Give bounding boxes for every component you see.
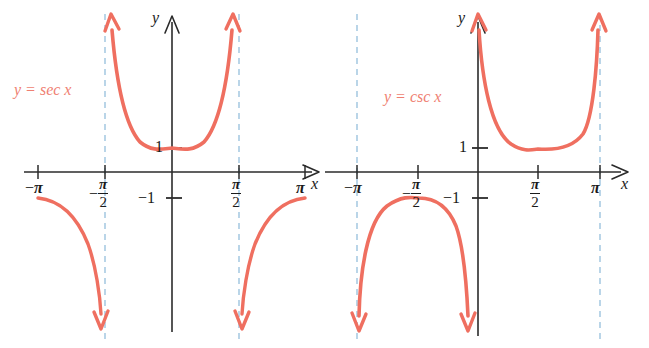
cosecant-graph-svg (325, 0, 649, 348)
csc-curve-left-branch (359, 197, 468, 316)
secant-graph-svg (0, 0, 325, 348)
x-tick-label-pi-over-2-sec: π2 (231, 178, 241, 212)
x-tick-label-neg-pi-over-2-csc: −π2 (402, 178, 421, 212)
x-axis-label-csc: x (621, 176, 628, 192)
y-tick-label-neg-one-sec: −1 (138, 190, 155, 206)
x-tick-label-pi-sec: π (296, 180, 305, 196)
y-tick-label-one-csc: 1 (459, 139, 467, 155)
y-axis-label-csc: y (458, 10, 465, 26)
y-tick-label-neg-one-csc: −1 (443, 190, 460, 206)
x-tick-label-pi-over-2-csc: π2 (530, 178, 540, 212)
equation-label-sec: y = sec x (14, 82, 71, 98)
x-tick-label-neg-pi-csc: −π (344, 180, 362, 196)
y-axis-label-sec: y (152, 10, 159, 26)
csc-curve-right-branch (479, 30, 598, 150)
csc-curve-right-right-arrowhead (592, 14, 606, 31)
cosecant-panel: y = csc x y x −π −π2 π2 π 1 −1 (325, 0, 649, 348)
secant-cosecant-figure: y = sec x y x −π −π2 π2 π 1 −1 (0, 0, 649, 348)
sec-curve-left-branch (38, 198, 101, 314)
sec-curve-middle-right-arrowhead (226, 14, 240, 31)
sec-curve-right-branch (242, 198, 305, 314)
x-tick-label-pi-csc: π (591, 180, 600, 196)
equation-label-csc: y = csc x (384, 89, 441, 105)
y-tick-label-one-sec: 1 (155, 139, 163, 155)
x-tick-label-neg-pi-sec: −π (25, 180, 43, 196)
x-axis-label-sec: x (311, 176, 318, 192)
x-tick-label-neg-pi-over-2-sec: −π2 (89, 178, 108, 212)
secant-panel: y = sec x y x −π −π2 π2 π 1 −1 (0, 0, 325, 348)
